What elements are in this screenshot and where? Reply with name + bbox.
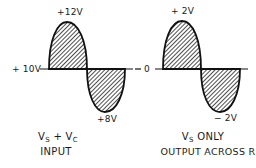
input-negative-half xyxy=(87,69,125,112)
input-caption-formula: VS + VC xyxy=(36,131,80,144)
input-caption: INPUT xyxy=(36,146,76,158)
output-caption: OUTPUT ACROSS R xyxy=(160,146,256,158)
output-peak-label: + 2V xyxy=(171,6,194,16)
plus-sign: + xyxy=(50,131,66,142)
vc-symbol: V xyxy=(66,131,73,142)
input-waveform xyxy=(40,22,133,112)
output-negative-half xyxy=(201,69,240,112)
output-waveform xyxy=(135,21,248,112)
vs-subscript: S xyxy=(189,136,194,144)
vc-subscript: C xyxy=(73,136,78,144)
output-baseline-label: 0 xyxy=(144,64,150,74)
input-peak-label: +12V xyxy=(57,7,83,17)
input-trough-label: +8V xyxy=(97,114,117,124)
only-text: ONLY xyxy=(194,131,224,142)
vs-symbol: V xyxy=(182,131,189,142)
output-trough-label: − 2V xyxy=(214,113,237,123)
output-caption-formula: VS ONLY xyxy=(178,131,228,144)
output-positive-half xyxy=(163,21,201,69)
vs-subscript: S xyxy=(45,136,50,144)
input-positive-half xyxy=(49,22,87,69)
input-baseline-label: + 10V xyxy=(12,64,41,74)
